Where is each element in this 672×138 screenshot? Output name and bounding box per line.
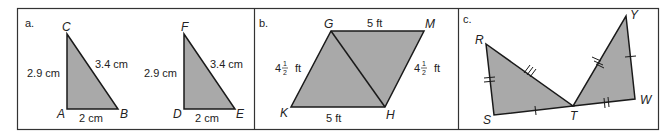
svg-text:2: 2 xyxy=(283,69,287,76)
panel-a: a. C A B 2.9 cm 3.4 cm 2 cm F D E 2.9 cm… xyxy=(25,17,245,124)
vertex-a: A xyxy=(56,107,65,121)
svg-text:1: 1 xyxy=(422,60,426,67)
vertex-y: Y xyxy=(630,8,639,22)
vertex-k: K xyxy=(280,106,289,120)
vertex-g: G xyxy=(324,17,333,31)
vertex-c: C xyxy=(62,20,71,34)
side-kg-length: 4 1 2 ft xyxy=(275,60,301,76)
vertex-b: B xyxy=(120,107,128,121)
side-fd-length: 2.9 cm xyxy=(144,67,177,79)
side-de-length: 2 cm xyxy=(195,112,219,124)
triangle-rst xyxy=(486,44,573,115)
svg-text:2: 2 xyxy=(422,69,426,76)
vertex-s: S xyxy=(483,113,491,127)
side-kh-length: 5 ft xyxy=(326,112,341,124)
side-fe-length: 3.4 cm xyxy=(210,58,243,70)
vertex-d: D xyxy=(173,107,182,121)
vertex-e: E xyxy=(236,107,245,121)
side-gm-length: 5 ft xyxy=(367,17,382,29)
svg-text:1: 1 xyxy=(283,60,287,67)
triangle-abc xyxy=(67,34,118,109)
svg-text:4: 4 xyxy=(275,62,281,74)
congruence-figure: a. C A B 2.9 cm 3.4 cm 2 cm F D E 2.9 cm… xyxy=(0,0,672,138)
vertex-t: T xyxy=(570,109,579,123)
vertex-m: M xyxy=(425,17,435,31)
side-mh-length: 4 1 2 ft xyxy=(414,60,440,76)
panel-c: c. R S T W Y xyxy=(463,8,653,127)
triangle-def xyxy=(184,34,235,109)
svg-text:ft: ft xyxy=(295,62,301,74)
panel-b-label: b. xyxy=(259,17,268,29)
vertex-r: R xyxy=(475,33,484,47)
panel-c-label: c. xyxy=(463,13,472,25)
side-cb-length: 3.4 cm xyxy=(95,58,128,70)
side-ab-length: 2 cm xyxy=(79,112,103,124)
side-ca-length: 2.9 cm xyxy=(27,67,60,79)
triangle-tyw xyxy=(573,16,635,106)
vertex-w: W xyxy=(640,93,653,107)
panel-b: b. G M H K 5 ft 5 ft 4 1 2 ft 4 1 2 ft xyxy=(259,17,440,124)
vertex-f: F xyxy=(181,20,189,34)
svg-text:4: 4 xyxy=(414,62,420,74)
vertex-h: H xyxy=(386,108,395,122)
panel-a-label: a. xyxy=(25,17,34,29)
svg-text:ft: ft xyxy=(434,62,440,74)
